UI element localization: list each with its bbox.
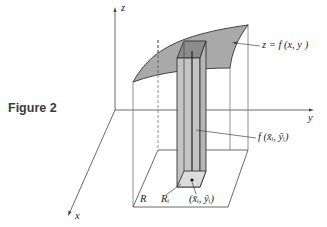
x-axis <box>69 110 115 214</box>
column-side-face <box>200 41 206 187</box>
height-label: f (x̄ᵢ, ȳᵢ) <box>258 131 288 142</box>
z-axis-label: z <box>121 2 125 13</box>
x-axis-arrow <box>68 211 72 217</box>
x-axis-label: x <box>75 210 80 221</box>
region-R-label: R <box>140 193 146 204</box>
z-axis-arrow <box>114 7 117 12</box>
sample-point <box>190 178 193 181</box>
subregion-Ri-label: Rᵢ <box>161 193 169 204</box>
surface-label: z = f (x, y ) <box>262 39 308 50</box>
sample-point-label: (x̄ᵢ, ȳᵢ) <box>189 193 214 204</box>
column-prism <box>177 41 206 187</box>
surface-leader <box>235 43 260 46</box>
column-front-face <box>177 58 200 187</box>
y-axis-label: y <box>308 112 313 123</box>
